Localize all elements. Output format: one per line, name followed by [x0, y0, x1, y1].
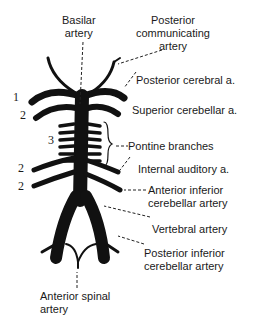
label-line: artery — [40, 303, 110, 316]
posterior-communicating-left — [48, 58, 74, 92]
label-line: communicating — [136, 27, 210, 40]
vertebral-artery-label: Vertebral artery — [152, 223, 227, 236]
label-line: Basilar — [62, 14, 96, 27]
anterior-spinal-artery-label: Anterior spinal artery — [40, 290, 110, 316]
label-line: Anterior spinal — [40, 290, 110, 303]
posterior-cerebral-left — [32, 92, 80, 102]
anterior-spinal-right — [78, 244, 96, 262]
pontine-bracket — [104, 122, 112, 166]
internal-auditory-left — [34, 158, 74, 170]
label-line: Posterior inferior — [144, 247, 225, 260]
label-line: Posterior — [136, 14, 210, 27]
label-line: cerebellar artery — [148, 197, 227, 210]
superior-cerebellar-right — [88, 107, 118, 114]
basilar-artery-label: Basilar artery — [62, 14, 96, 40]
number-2-aica: 2 — [18, 179, 24, 194]
label-line: Anterior inferior — [148, 184, 227, 197]
label-line: cerebellar artery — [144, 260, 225, 273]
number-2-auditory: 2 — [18, 161, 24, 176]
posterior-communicating-artery-label: Posterior communicating artery — [136, 14, 210, 53]
number-3: 3 — [48, 133, 54, 148]
internal-auditory-label: Internal auditory a. — [138, 163, 229, 176]
anterior-spinal-left — [66, 244, 78, 262]
pontine-branches-label: Pontine branches — [128, 140, 214, 153]
vertebral-right — [86, 196, 104, 258]
superior-cerebellar-left — [36, 107, 76, 118]
aica-left — [34, 172, 74, 186]
number-1: 1 — [13, 90, 19, 105]
posterior-cerebral-right — [84, 91, 124, 98]
pica-label: Posterior inferior cerebellar artery — [144, 247, 225, 273]
superior-cerebellar-label: Superior cerebellar a. — [132, 104, 237, 117]
aica-label: Anterior inferior cerebellar artery — [148, 184, 227, 210]
aica-right — [86, 174, 120, 190]
label-line: artery — [136, 40, 210, 53]
number-2-superior: 2 — [20, 108, 26, 123]
label-line: artery — [62, 27, 96, 40]
posterior-communicating-right — [92, 62, 114, 92]
posterior-cerebral-label: Posterior cerebral a. — [136, 74, 235, 87]
internal-auditory-right — [86, 160, 118, 172]
basilar-trunk — [80, 96, 82, 200]
